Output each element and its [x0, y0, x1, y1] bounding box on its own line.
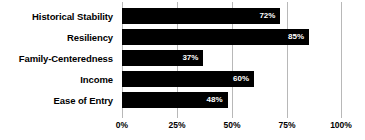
category-label: Historical Stability — [0, 8, 118, 24]
bar-resiliency: 85% — [122, 29, 309, 45]
bar-row: 85% — [122, 29, 342, 45]
xtick-label-50: 50% — [223, 120, 240, 130]
category-axis: Historical Stability Resiliency Family-C… — [0, 8, 118, 115]
bar-family-centeredness: 37% — [122, 50, 203, 66]
bar-ease-of-entry: 48% — [122, 92, 228, 108]
bar-row: 37% — [122, 50, 342, 66]
xtick-label-100: 100% — [330, 120, 352, 130]
value-axis: 0% 25% 50% 75% 100% — [122, 118, 342, 138]
bar-income: 60% — [122, 71, 254, 87]
bars-layer: 72% 85% 37% 60% 48% — [122, 8, 342, 115]
category-label: Resiliency — [0, 29, 118, 45]
bar-value-label: 72% — [259, 12, 280, 20]
plot-area: 72% 85% 37% 60% 48% — [122, 0, 342, 118]
xtick-label-75: 75% — [278, 120, 295, 130]
category-label: Family-Centeredness — [0, 50, 118, 66]
bar-chart: Historical Stability Resiliency Family-C… — [0, 0, 365, 140]
bar-row: 48% — [122, 92, 342, 108]
bar-value-label: 85% — [288, 33, 309, 41]
bar-value-label: 37% — [182, 54, 203, 62]
bar-value-label: 48% — [207, 96, 228, 104]
bar-historical-stability: 72% — [122, 8, 280, 24]
bar-row: 60% — [122, 71, 342, 87]
category-label: Ease of Entry — [0, 92, 118, 108]
bar-row: 72% — [122, 8, 342, 24]
category-label: Income — [0, 71, 118, 87]
xtick-label-25: 25% — [168, 120, 185, 130]
xtick-label-0: 0% — [116, 120, 128, 130]
bar-value-label: 60% — [233, 75, 254, 83]
